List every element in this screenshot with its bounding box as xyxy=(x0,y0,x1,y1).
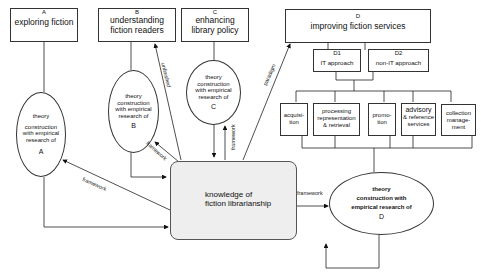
theory-ellipse-a: theory construction with empirical resea… xyxy=(16,92,66,177)
theory-ellipse-c: theory construction with empirical resea… xyxy=(186,60,241,125)
knowledge-box: knowledge of fiction librarianship xyxy=(170,161,297,240)
theory-text: construction xyxy=(197,81,229,88)
approach-title-d1: IT approach xyxy=(314,59,360,66)
service-box-promotion: promo- tion xyxy=(368,103,396,136)
knowledge-title-line2: fiction librarianship xyxy=(205,199,296,208)
goal-letter-d: D xyxy=(286,13,430,20)
theory-text: empirical research of xyxy=(351,204,411,211)
approach-box-d1: D1 IT approach xyxy=(313,49,361,72)
goal-box-c: C enhancing library policy xyxy=(181,8,249,42)
theory-text: theory xyxy=(372,186,390,193)
theory-text: with empirical xyxy=(115,106,151,113)
approach-letter-d2: D2 xyxy=(369,50,428,57)
theory-text: construction xyxy=(25,124,57,131)
theory-letter-d: D xyxy=(379,213,384,221)
goal-title-c-line2: library policy xyxy=(182,26,248,36)
theory-text: research of xyxy=(198,94,228,101)
service-label: ment xyxy=(442,124,475,131)
service-label: & reference xyxy=(402,114,435,121)
theory-text: theory xyxy=(33,113,50,120)
service-label: services xyxy=(402,121,435,128)
goal-title-d: improving fiction services xyxy=(286,22,430,32)
service-box-processing: processing representation & retrieval xyxy=(313,103,360,136)
service-label: tion xyxy=(281,119,307,126)
theory-letter-c: C xyxy=(211,103,216,111)
goal-box-b: B understanding fiction readers xyxy=(98,8,176,42)
goal-title-b-line2: fiction readers xyxy=(99,26,175,36)
edge-label-framework-c: framework xyxy=(230,124,236,150)
theory-text: with empirical xyxy=(23,130,59,137)
theory-text: research of xyxy=(26,137,56,144)
goal-title-a: exploring fiction xyxy=(11,18,77,28)
service-label: processing xyxy=(314,108,359,115)
theory-ellipse-d: theory construction with empirical resea… xyxy=(329,172,434,235)
theory-letter-b: B xyxy=(131,122,136,130)
service-label: collection xyxy=(442,110,475,117)
service-label: acquisi- xyxy=(281,112,307,119)
knowledge-title-line1: knowledge of xyxy=(205,190,296,199)
approach-box-d2: D2 non-IT approach xyxy=(368,49,429,72)
theory-text: construction xyxy=(117,100,149,107)
goal-letter-a: A xyxy=(11,9,77,16)
theory-letter-a: A xyxy=(39,148,44,156)
service-label: representation xyxy=(314,115,359,122)
service-label: manage- xyxy=(442,117,475,124)
service-label: tion xyxy=(369,119,395,126)
goal-box-d: D improving fiction services xyxy=(285,9,431,43)
service-label: & retrieval xyxy=(314,122,359,129)
service-label: advisory xyxy=(402,106,435,114)
theory-ellipse-b: theory construction with empirical resea… xyxy=(108,70,159,153)
service-label: promo- xyxy=(369,112,395,119)
theory-text: theory xyxy=(125,93,142,100)
theory-text: construction with xyxy=(357,195,407,202)
edge-label-framework-d: framework xyxy=(297,190,323,196)
approach-letter-d1: D1 xyxy=(314,50,360,57)
theory-text: with empirical xyxy=(195,87,231,94)
goal-box-a: A exploring fiction xyxy=(10,8,78,42)
service-box-advisory: advisory & reference services xyxy=(401,103,436,136)
approach-title-d2: non-IT approach xyxy=(369,59,428,66)
theory-text: theory xyxy=(205,74,222,81)
service-box-collection: collection manage- ment xyxy=(441,104,476,136)
service-box-acquisition: acquisi- tion xyxy=(280,103,308,136)
theory-text: research of xyxy=(118,113,148,120)
